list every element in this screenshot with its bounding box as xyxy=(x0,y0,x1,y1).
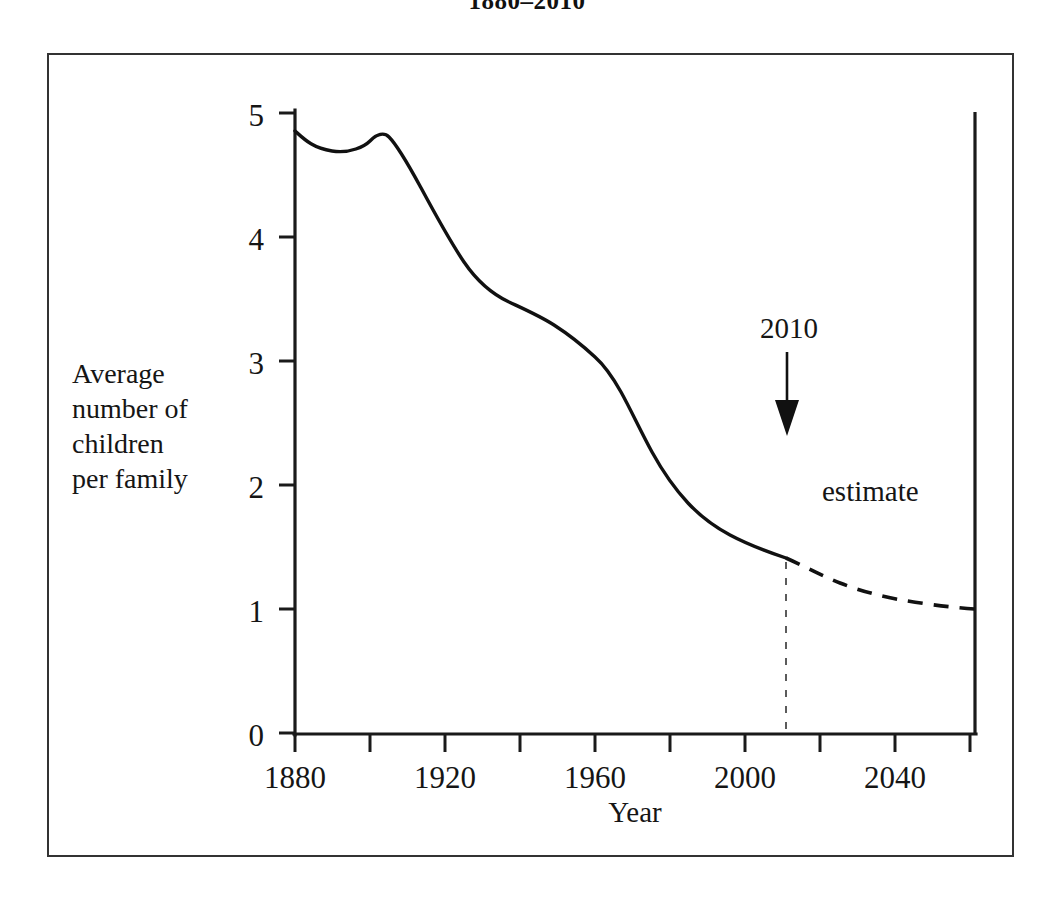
arrow-head-2010-icon xyxy=(775,400,799,436)
data-line-estimate xyxy=(786,558,975,609)
y-tick-label-5: 5 xyxy=(249,98,265,133)
x-tick-label-1920: 1920 xyxy=(414,760,476,795)
x-tick-label-2040: 2040 xyxy=(864,760,926,795)
data-line-observed xyxy=(295,131,786,558)
y-tick-label-0: 0 xyxy=(249,718,265,753)
y-tick-label-4: 4 xyxy=(249,222,265,257)
annotation-label-estimate: estimate xyxy=(822,475,919,507)
x-tick-label-1880: 1880 xyxy=(264,760,326,795)
y-tick-label-1: 1 xyxy=(249,594,265,629)
x-axis-title: Year xyxy=(608,796,662,828)
y-tick-label-2: 2 xyxy=(249,470,265,505)
y-tick-label-3: 3 xyxy=(249,346,265,381)
x-tick-label-2000: 2000 xyxy=(714,760,776,795)
x-tick-label-1960: 1960 xyxy=(564,760,626,795)
figure-container: 1880–2010 Average number of children per… xyxy=(0,0,1054,908)
chart-plot-area: 5 4 3 2 1 0 1880 1920 1960 2000 2040 Yea… xyxy=(0,0,1054,908)
annotation-label-2010: 2010 xyxy=(760,312,818,344)
